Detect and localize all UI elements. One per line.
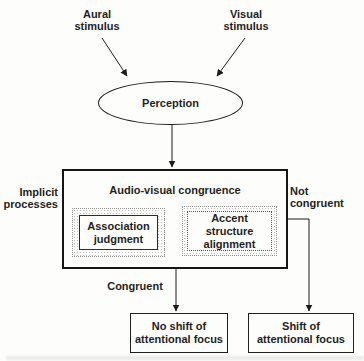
implicit-processes-line2: processes xyxy=(0,198,58,210)
implicit-processes-label: Implicit processes xyxy=(0,186,58,210)
accent-structure-alignment-frame: Accent structure alignment xyxy=(182,206,277,256)
shift-line1: Shift of xyxy=(282,320,320,333)
congruent-label: Congruent xyxy=(104,280,166,292)
not-congruent-line2: congruent xyxy=(290,197,362,209)
no-shift-line1: No shift of xyxy=(152,320,206,333)
not-congruent-label: Not congruent xyxy=(290,185,362,209)
aural-stimulus-label: Aural stimulus xyxy=(62,8,132,32)
perception-node: Perception xyxy=(98,81,243,125)
aural-stimulus-line2: stimulus xyxy=(62,20,132,32)
arrow-visual-to-perception xyxy=(217,38,245,76)
aural-stimulus-line1: Aural xyxy=(62,8,132,20)
visual-stimulus-line1: Visual xyxy=(211,8,281,20)
flow-diagram: Aural stimulus Visual stimulus Perceptio… xyxy=(0,0,364,361)
shift-node: Shift of attentional focus xyxy=(248,313,354,353)
accent-structure-alignment-line1: Accent structure xyxy=(188,212,271,238)
visual-stimulus-line2: stimulus xyxy=(211,20,281,32)
accent-structure-alignment-node: Accent structure alignment xyxy=(187,211,272,251)
no-shift-line2: attentional focus xyxy=(135,333,223,346)
implicit-processes-line1: Implicit xyxy=(0,186,58,198)
visual-stimulus-label: Visual stimulus xyxy=(211,8,281,32)
association-judgment-line1: Association xyxy=(87,220,149,233)
arrow-not-congruent-to-shift xyxy=(287,219,309,311)
no-shift-node: No shift of attentional focus xyxy=(130,313,228,353)
audio-visual-congruence-title: Audio-visual congruence xyxy=(64,184,286,196)
association-judgment-frame: Association judgment xyxy=(72,208,165,257)
association-judgment-node: Association judgment xyxy=(79,215,158,250)
arrow-aural-to-perception xyxy=(102,38,127,76)
not-congruent-line1: Not xyxy=(290,185,362,197)
accent-structure-alignment-line2: alignment xyxy=(204,238,256,251)
shift-line2: attentional focus xyxy=(257,333,345,346)
perception-label: Perception xyxy=(142,97,199,109)
association-judgment-line2: judgment xyxy=(94,233,144,246)
page-edge-shadow xyxy=(6,356,364,360)
